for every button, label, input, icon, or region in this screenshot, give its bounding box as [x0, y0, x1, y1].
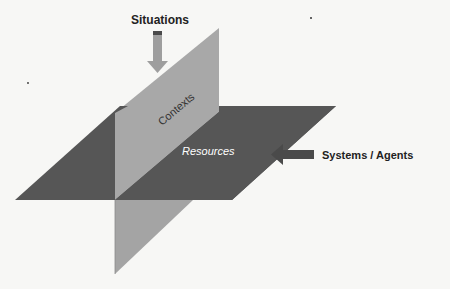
contexts-resources-diagram: Situations Contexts Resources Systems / …: [0, 0, 450, 289]
situations-label: Situations: [131, 13, 189, 27]
speck: [27, 82, 29, 84]
speck: [310, 17, 312, 19]
resources-label: Resources: [182, 145, 235, 157]
systems-agents-label: Systems / Agents: [322, 149, 413, 161]
